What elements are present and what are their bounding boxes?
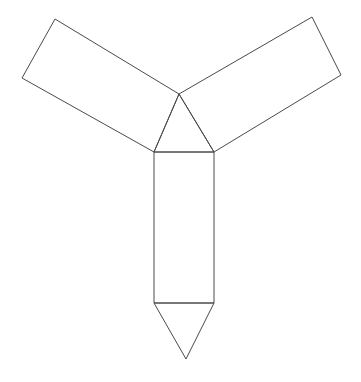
figure-background <box>0 0 361 382</box>
triangular-prism-net-figure <box>0 0 361 382</box>
